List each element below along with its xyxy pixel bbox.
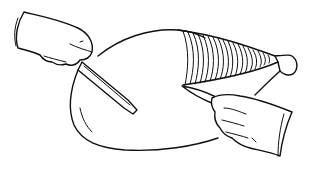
- illustration-canvas: [0, 0, 313, 172]
- left-hand-with-cuff: [15, 12, 93, 65]
- right-hand-with-cuff: [212, 95, 292, 156]
- ham-carving-illustration: [0, 0, 313, 172]
- carving-knife: [182, 86, 216, 104]
- carving-fork: [78, 62, 137, 114]
- ham-skin-striped-section: [178, 30, 278, 85]
